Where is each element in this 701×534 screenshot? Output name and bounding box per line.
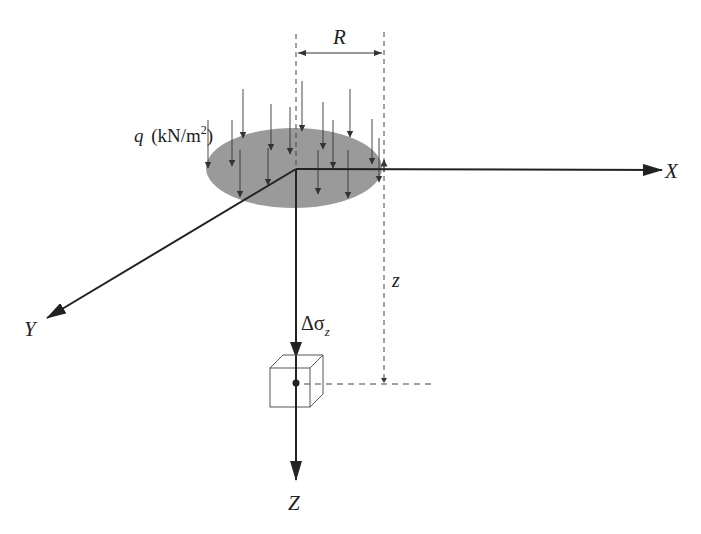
depth-label: z — [391, 269, 400, 291]
stress-arrowhead — [290, 342, 302, 358]
x-axis — [296, 169, 662, 170]
x-axis-label: X — [664, 159, 679, 183]
depth-arrowhead — [381, 378, 387, 383]
y-axis-label: Y — [24, 317, 38, 341]
point-of-interest — [293, 380, 300, 387]
radius-label: R — [332, 25, 346, 49]
y-axis — [47, 169, 296, 318]
stress-increment-label: Δσz — [301, 312, 330, 339]
load-label: q (kN/m2) — [134, 123, 213, 147]
z-axis-label: Z — [288, 491, 300, 515]
stress-diagram: R q (kN/m2) X Y Z z Δσz — [0, 0, 701, 534]
